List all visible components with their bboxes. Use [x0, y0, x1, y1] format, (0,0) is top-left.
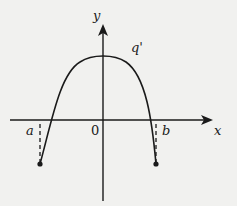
point-b-label: b: [162, 124, 170, 137]
curve-q-prime: [40, 56, 156, 164]
graph-svg: [0, 0, 237, 206]
origin-label: 0: [91, 124, 99, 137]
diagram-canvas: y q' a 0 b x: [0, 0, 237, 206]
point-a-label: a: [26, 124, 34, 137]
x-axis-label: x: [214, 124, 221, 137]
endpoint-a-dot: [37, 161, 42, 166]
curve-label: q': [131, 41, 143, 54]
endpoint-b-dot: [153, 161, 158, 166]
y-axis-label: y: [93, 9, 100, 22]
